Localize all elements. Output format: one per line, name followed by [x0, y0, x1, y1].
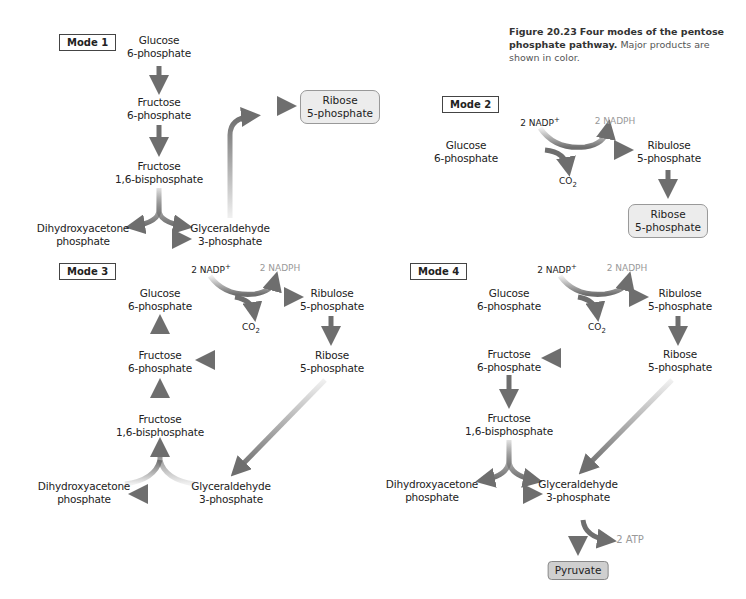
mode4-nadp: 2 NADP+	[537, 263, 577, 275]
mode4-fructose-1-6-bisphosphate: Fructose1,6-bisphosphate	[465, 412, 553, 438]
mode1-dihydroxyacetone-phosphate: Dihydroxyacetonephosphate	[37, 222, 129, 248]
mode2-co2: CO2	[559, 176, 577, 189]
mode3-glucose-6-phosphate: Glucose6-phosphate	[128, 287, 192, 313]
mode-1-label: Mode 1	[59, 34, 116, 51]
mode4-glucose-6-phosphate: Glucose6-phosphate	[477, 287, 541, 313]
mode-4-label: Mode 4	[410, 263, 467, 280]
mode4-ribulose-5-phosphate: Ribulose5-phosphate	[648, 287, 712, 313]
mode2-nadp: 2 NADP+	[520, 116, 560, 128]
mode1-fructose-1-6-bisphosphate: Fructose1,6-bisphosphate	[115, 160, 203, 186]
mode3-nadp: 2 NADP+	[191, 263, 231, 275]
mode4-dihydroxyacetone-phosphate: Dihydroxyacetonephosphate	[386, 478, 478, 504]
mode4-nadph-product: 2 NADPH	[607, 263, 648, 273]
mode1-glucose-6-phosphate: Glucose6-phosphate	[127, 34, 191, 60]
mode2-glucose-6-phosphate: Glucose6-phosphate	[434, 139, 498, 165]
mode1-fructose-6-phosphate: Fructose6-phosphate	[127, 96, 191, 122]
mode2-ribose-5-phosphate-product: Ribose5-phosphate	[628, 204, 708, 238]
mode1-glyceraldehyde-3-phosphate: Glyceraldehyde3-phosphate	[190, 222, 270, 248]
mode3-co2: CO2	[242, 322, 260, 335]
mode3-glyceraldehyde-3-phosphate: Glyceraldehyde3-phosphate	[191, 480, 271, 506]
mode1-ribose-5-phosphate-product: Ribose5-phosphate	[300, 90, 380, 124]
mode2-nadph-product: 2 NADPH	[595, 116, 636, 126]
figure-label: Figure 20.23	[509, 26, 577, 37]
mode4-co2: CO2	[588, 322, 606, 335]
mode4-ribose-5-phosphate: Ribose5-phosphate	[648, 348, 712, 374]
mode-2-label: Mode 2	[442, 96, 499, 113]
mode3-fructose-1-6-bisphosphate: Fructose1,6-bisphosphate	[116, 413, 204, 439]
mode4-fructose-6-phosphate: Fructose6-phosphate	[477, 348, 541, 374]
mode4-pyruvate-product: Pyruvate	[548, 561, 609, 580]
mode3-ribose-5-phosphate: Ribose5-phosphate	[300, 349, 364, 375]
mode3-fructose-6-phosphate: Fructose6-phosphate	[128, 349, 192, 375]
mode3-nadph-product: 2 NADPH	[260, 263, 301, 273]
mode4-atp-product: 2 ATP	[616, 534, 644, 545]
mode3-dihydroxyacetone-phosphate: Dihydroxyacetonephosphate	[38, 480, 130, 506]
mode2-ribulose-5-phosphate: Ribulose5-phosphate	[637, 139, 701, 165]
mode-3-label: Mode 3	[59, 263, 116, 280]
mode4-glyceraldehyde-3-phosphate: Glyceraldehyde3-phosphate	[538, 478, 618, 504]
figure-caption: Figure 20.23 Four modes of the pentose p…	[509, 25, 739, 64]
mode3-ribulose-5-phosphate: Ribulose5-phosphate	[300, 287, 364, 313]
